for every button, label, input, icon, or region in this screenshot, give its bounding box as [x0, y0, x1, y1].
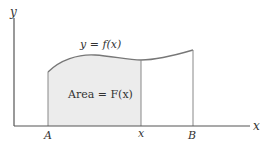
- y-axis-label: y: [9, 5, 17, 19]
- point-x-label: x: [138, 127, 145, 140]
- x-axis-label: x: [253, 119, 260, 133]
- area-function-diagram: y x y = f(x) Area = F(x) A x B: [0, 0, 268, 143]
- point-b-label: B: [187, 129, 196, 142]
- curve-label: y = f(x): [79, 38, 121, 51]
- area-label: Area = F(x): [67, 88, 133, 101]
- point-a-label: A: [43, 129, 52, 142]
